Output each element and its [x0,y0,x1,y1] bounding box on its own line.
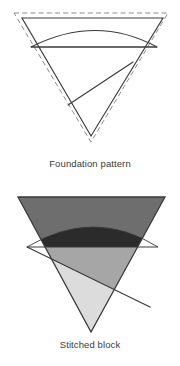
figure-foundation-pattern: Foundation pattern [0,0,180,183]
block-patch-group [0,183,180,333]
stitched-block-drawing [0,183,180,333]
figure-stitched-block: Stitched block [0,183,180,366]
figure-caption-stitched: Stitched block [0,339,180,351]
illustration-sheet: Foundation pattern [0,0,180,366]
foundation-pattern-drawing [0,0,180,150]
stitching-line-triangle [22,18,163,136]
figure-caption-foundation: Foundation pattern [0,158,180,170]
